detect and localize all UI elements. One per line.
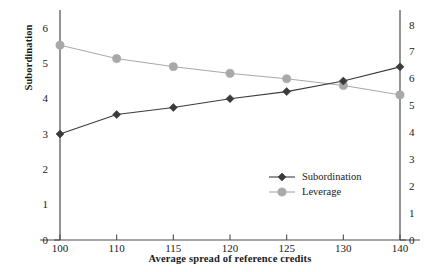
- legend-marks: [269, 173, 295, 196]
- x-tick-label: 110: [97, 243, 137, 254]
- data-point-marker: [283, 88, 291, 96]
- right-tick-label: 4: [409, 127, 429, 138]
- left-tick-label: 1: [28, 199, 48, 210]
- right-tick-label: 7: [409, 46, 429, 57]
- legend-item-label: Leverage: [302, 186, 341, 197]
- series-leverage: [56, 41, 404, 99]
- chart-figure: Subordination Average spread of referenc…: [0, 0, 431, 272]
- data-point-marker: [113, 54, 121, 62]
- data-point-marker: [56, 41, 64, 49]
- left-tick-label: 3: [28, 129, 48, 140]
- x-tick-label: 115: [153, 243, 193, 254]
- right-tick-label: 2: [409, 181, 429, 192]
- right-tick-label: 3: [409, 154, 429, 165]
- left-tick-label: 4: [28, 93, 48, 104]
- x-tick-label: 125: [267, 243, 307, 254]
- data-point-marker: [56, 130, 64, 138]
- data-point-marker: [283, 75, 291, 83]
- x-tick-label: 130: [323, 243, 363, 254]
- x-axis-ticks: [60, 235, 400, 241]
- data-point-marker: [113, 111, 121, 119]
- x-tick-label: 100: [40, 243, 80, 254]
- right-tick-label: 5: [409, 100, 429, 111]
- data-point-marker: [226, 69, 234, 77]
- data-point-marker: [396, 63, 404, 71]
- legend-marker: [278, 188, 286, 196]
- x-tick-label: 140: [380, 243, 420, 254]
- right-tick-label: 6: [409, 73, 429, 84]
- left-tick-label: 5: [28, 58, 48, 69]
- data-point-marker: [396, 91, 404, 99]
- data-point-marker: [278, 173, 286, 181]
- plot-area: [0, 0, 431, 272]
- legend-item-label: Subordination: [302, 171, 362, 182]
- x-axis-title: Average spread of reference credits: [60, 253, 400, 264]
- right-tick-label: 1: [409, 208, 429, 219]
- data-point-marker: [169, 63, 177, 71]
- right-tick-label: 8: [409, 20, 429, 31]
- left-tick-label: 6: [28, 23, 48, 34]
- left-tick-label: 2: [28, 164, 48, 175]
- data-point-marker: [169, 104, 177, 112]
- data-point-marker: [226, 95, 234, 103]
- x-tick-label: 120: [210, 243, 250, 254]
